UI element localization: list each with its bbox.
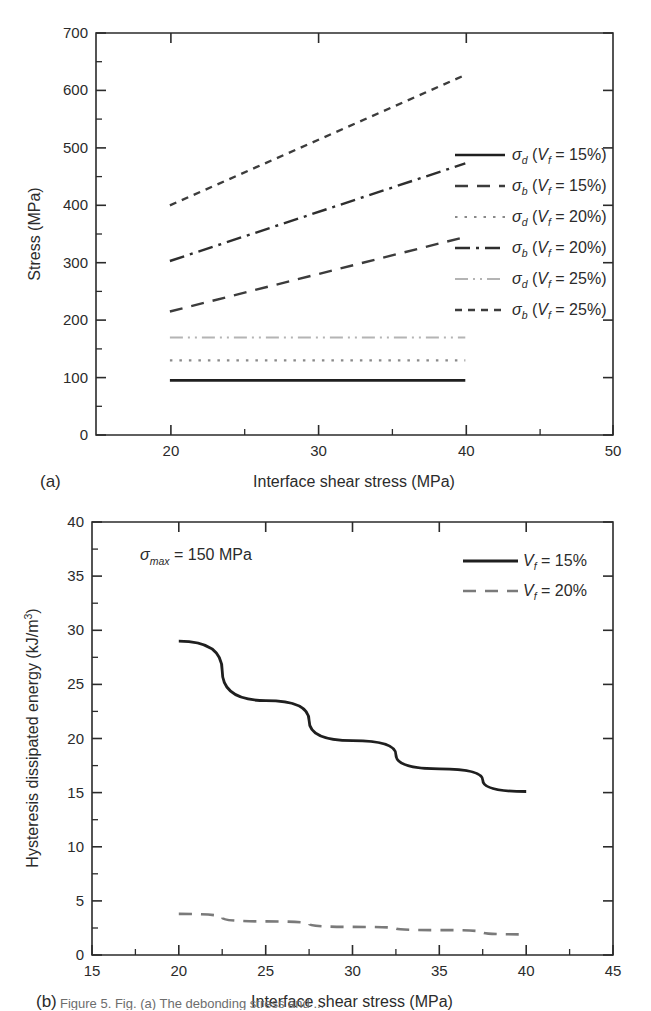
x-tick-label: 30	[344, 962, 361, 979]
x-tick-label: 50	[605, 442, 622, 459]
legend-item-label: σb (Vf = 15%)	[512, 177, 606, 197]
legend-item-label: σb (Vf = 25%)	[512, 301, 606, 321]
y-axis-b: 0 5 10 15 20 25 30 35 40	[67, 513, 613, 963]
legend-a: σd (Vf = 15%) σb (Vf = 15%) σd (Vf = 20%…	[455, 146, 606, 321]
x-tick-label: 40	[518, 962, 535, 979]
chart-panel-b: 0 5 10 15 20 25 30 35 40	[0, 500, 651, 1011]
panel-label-a: (a)	[40, 472, 61, 491]
y-tick-label: 0	[80, 426, 88, 443]
y-tick-label: 30	[67, 621, 84, 638]
y-axis-title-a: Stress (MPa)	[26, 187, 43, 280]
legend-item-label: σd (Vf = 20%)	[512, 208, 606, 228]
chart-panel-a: 0 100 200 300 400 500 600 700 20 30 40 5…	[0, 0, 651, 500]
panel-label-b: (b)	[36, 992, 57, 1011]
y-tick-label: 40	[67, 513, 84, 530]
data-line	[179, 641, 526, 791]
legend-item-label: Vf = 15%	[523, 552, 587, 572]
y-tick-label: 25	[67, 675, 84, 692]
x-axis-title-a: Interface shear stress (MPa)	[253, 473, 455, 490]
y-tick-label: 15	[67, 784, 84, 801]
legend-b: Vf = 15% Vf = 20%	[463, 552, 587, 602]
x-tick-label: 20	[163, 442, 180, 459]
y-tick-label: 10	[67, 838, 84, 855]
axis-frame-b	[92, 522, 613, 955]
y-tick-label: 600	[63, 81, 88, 98]
x-tick-label: 30	[310, 442, 327, 459]
data-lines-a	[170, 75, 465, 381]
x-tick-label: 15	[84, 962, 101, 979]
x-tick-label: 40	[458, 442, 475, 459]
data-line	[170, 163, 465, 261]
y-tick-label: 700	[63, 24, 88, 41]
legend-item-label: σb (Vf = 20%)	[512, 239, 606, 259]
legend-item-label: Vf = 20%	[523, 582, 587, 602]
y-tick-label: 300	[63, 254, 88, 271]
data-line	[179, 914, 526, 935]
y-tick-label: 200	[63, 311, 88, 328]
y-tick-label: 5	[76, 892, 84, 909]
legend-item-label: σd (Vf = 25%)	[512, 270, 606, 290]
data-line	[170, 75, 465, 205]
axis-frame-a	[96, 33, 613, 435]
y-tick-label: 35	[67, 567, 84, 584]
y-tick-label: 100	[63, 369, 88, 386]
y-tick-label: 0	[76, 946, 84, 963]
y-tick-label: 500	[63, 139, 88, 156]
x-tick-label: 45	[605, 962, 622, 979]
y-axis-title-b: Hysteresis dissipated energy (kJ/m3)	[22, 608, 41, 867]
figure-caption: Figure 5. Fig. (a) The debonding stress …	[60, 996, 620, 1010]
y-tick-label: 20	[67, 730, 84, 747]
x-tick-label: 25	[257, 962, 274, 979]
x-tick-label: 35	[431, 962, 448, 979]
data-lines-b	[179, 641, 526, 934]
figure-container: 0 100 200 300 400 500 600 700 20 30 40 5…	[0, 0, 651, 1011]
annotation-sigma-max: σmax = 150 MPa	[140, 546, 252, 567]
legend-item-label: σd (Vf = 15%)	[512, 146, 606, 166]
y-tick-label: 400	[63, 196, 88, 213]
data-line	[170, 237, 465, 312]
x-tick-label: 20	[170, 962, 187, 979]
